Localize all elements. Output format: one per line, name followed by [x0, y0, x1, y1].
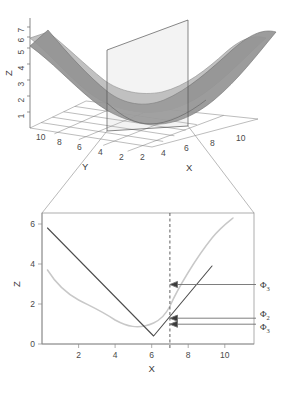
svg-text:6: 6: [149, 350, 154, 360]
svg-text:5: 5: [16, 49, 26, 54]
svg-text:6: 6: [30, 219, 35, 229]
svg-text:6: 6: [16, 37, 26, 42]
svg-text:2: 2: [119, 152, 124, 162]
svg-text:8: 8: [186, 350, 191, 360]
panel2d-xlabel: X: [149, 363, 156, 374]
svg-text:4: 4: [113, 350, 118, 360]
panel3d-zlabel: Z: [3, 70, 14, 76]
svg-text:6: 6: [184, 143, 189, 153]
svg-text:8: 8: [57, 137, 62, 147]
callout-left: [42, 131, 107, 213]
svg-text:2: 2: [16, 97, 26, 102]
panel2d-z-ticks: [38, 224, 42, 344]
svg-text:7: 7: [16, 27, 26, 32]
z-tick-labels: 1 2 3 4 5 6 7: [16, 27, 26, 118]
annotation-labels: Φ3 Φ2 Φ3: [260, 280, 270, 334]
svg-text:10: 10: [36, 132, 46, 142]
svg-text:4: 4: [161, 148, 166, 158]
svg-text:6: 6: [77, 142, 82, 152]
svg-text:2: 2: [30, 299, 35, 309]
panel3d-xlabel: X: [186, 162, 193, 173]
svg-text:10: 10: [220, 350, 230, 360]
panel3d-ylabel: Y: [82, 161, 89, 172]
annotation-phi-2: Φ3: [260, 322, 270, 334]
svg-text:0: 0: [30, 339, 35, 349]
svg-text:2: 2: [76, 350, 81, 360]
z-axis-ticks: [27, 27, 30, 112]
panel-3d: 1 2 3 4 5 6 7 Z 10 8 6 4 2 Y 2 4 6 8 10 …: [3, 18, 276, 173]
panel-2d: 0 2 4 6 Z 2 4 6 8 10 X: [11, 213, 270, 374]
svg-text:4: 4: [30, 259, 35, 269]
figure-root: 1 2 3 4 5 6 7 Z 10 8 6 4 2 Y 2 4 6 8 10 …: [0, 0, 292, 396]
panel2d-x-tick-labels: 2 4 6 8 10: [76, 350, 230, 360]
cutting-plane: [107, 20, 188, 131]
annotation-phi-1: Φ2: [260, 309, 270, 321]
svg-text:4: 4: [16, 65, 26, 70]
panel2d-x-ticks: [79, 344, 225, 348]
panel2d-ylabel: Z: [11, 281, 22, 287]
svg-text:10: 10: [236, 133, 246, 143]
svg-text:4: 4: [98, 147, 103, 157]
svg-text:1: 1: [16, 113, 26, 118]
svg-text:3: 3: [16, 81, 26, 86]
svg-text:8: 8: [210, 138, 215, 148]
annotation-phi-0: Φ3: [260, 280, 270, 292]
panel2d-z-tick-labels: 0 2 4 6: [30, 219, 35, 349]
svg-text:2: 2: [140, 152, 145, 162]
